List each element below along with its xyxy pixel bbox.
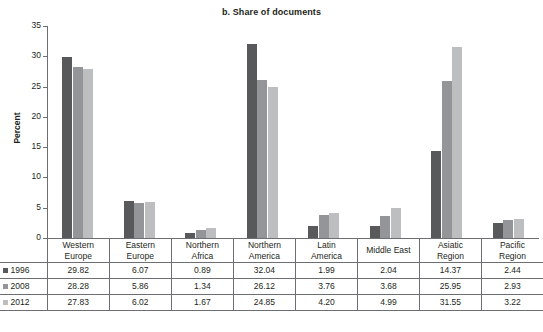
y-tick-label: 15 bbox=[32, 141, 41, 151]
table-value-cell: 14.37 bbox=[419, 263, 481, 279]
bar bbox=[124, 201, 134, 238]
y-tick-label: 30 bbox=[32, 50, 41, 60]
legend-label: 2008 bbox=[11, 281, 30, 291]
table-value-cell: 4.99 bbox=[358, 295, 420, 311]
category-label-line: Western bbox=[48, 240, 109, 251]
bar-group bbox=[232, 26, 294, 238]
legend-swatch bbox=[3, 284, 8, 289]
bar-group bbox=[47, 26, 109, 238]
category-label-line: Europe bbox=[110, 251, 171, 262]
table-value-cell: 24.85 bbox=[233, 295, 295, 311]
bar-group bbox=[293, 26, 355, 238]
bar bbox=[83, 69, 93, 238]
legend-label: 1996 bbox=[11, 265, 30, 275]
table-row: 200828.285.861.3426.123.763.6825.952.93 bbox=[0, 279, 543, 295]
bar bbox=[196, 230, 206, 238]
category-label-line: America bbox=[296, 251, 357, 262]
bar bbox=[329, 213, 339, 238]
table-value-cell: 6.02 bbox=[109, 295, 171, 311]
table-value-cell: 25.95 bbox=[419, 279, 481, 295]
y-tick-label: 25 bbox=[32, 81, 41, 91]
bar bbox=[503, 220, 513, 238]
category-label-line: Northern bbox=[172, 240, 233, 251]
bar-group bbox=[109, 26, 171, 238]
plot-area: 05101520253035 bbox=[47, 26, 539, 239]
bar bbox=[380, 216, 390, 238]
table-value-cell: 32.04 bbox=[233, 263, 295, 279]
table-value-cell: 26.12 bbox=[233, 279, 295, 295]
bar bbox=[319, 215, 329, 238]
bar bbox=[268, 87, 278, 238]
legend-entry: 2008 bbox=[0, 279, 47, 295]
table-category-header: PacificRegion bbox=[481, 239, 543, 263]
table-value-cell: 3.68 bbox=[358, 279, 420, 295]
table-category-header: LatinAmerica bbox=[295, 239, 357, 263]
bar bbox=[308, 226, 318, 238]
table-value-cell: 5.86 bbox=[109, 279, 171, 295]
bar bbox=[247, 44, 257, 238]
category-label-line: Latin bbox=[296, 240, 357, 251]
legend-entry: 1996 bbox=[0, 263, 47, 279]
table-corner-cell bbox=[0, 239, 47, 263]
bar-group bbox=[170, 26, 232, 238]
legend-swatch bbox=[3, 268, 8, 273]
category-label-line: Europe bbox=[48, 251, 109, 262]
category-label-line: Region bbox=[482, 251, 543, 262]
table-value-cell: 2.04 bbox=[358, 263, 420, 279]
bar bbox=[134, 203, 144, 238]
table-value-cell: 29.82 bbox=[47, 263, 109, 279]
bar bbox=[73, 67, 83, 238]
category-label-line: Region bbox=[420, 251, 481, 262]
table-category-header: EasternEurope bbox=[109, 239, 171, 263]
bar bbox=[62, 57, 72, 238]
bar bbox=[514, 219, 524, 239]
table-value-cell: 1.34 bbox=[171, 279, 233, 295]
table-value-cell: 31.55 bbox=[419, 295, 481, 311]
legend-entry: 2012 bbox=[0, 295, 47, 311]
table-row: 199629.826.070.8932.041.992.0414.372.44 bbox=[0, 263, 543, 279]
chart-title: b. Share of documents bbox=[0, 7, 543, 17]
table-value-cell: 1.67 bbox=[171, 295, 233, 311]
legend-swatch bbox=[3, 300, 8, 305]
bar bbox=[431, 151, 441, 238]
table-category-header: Middle East bbox=[358, 239, 420, 263]
table-value-cell: 28.28 bbox=[47, 279, 109, 295]
bar-group bbox=[355, 26, 417, 238]
table-value-cell: 6.07 bbox=[109, 263, 171, 279]
table-value-cell: 3.22 bbox=[481, 295, 543, 311]
bar bbox=[370, 226, 380, 238]
bar bbox=[391, 208, 401, 238]
table-row: 201227.836.021.6724.854.204.9931.553.22 bbox=[0, 295, 543, 311]
category-label-line: Middle East bbox=[358, 245, 419, 256]
bar-group bbox=[416, 26, 478, 238]
table-category-header: AsiaticRegion bbox=[419, 239, 481, 263]
y-tick-label: 5 bbox=[36, 202, 41, 212]
y-tick-label: 10 bbox=[32, 171, 41, 181]
table-category-header: NorthernAmerica bbox=[233, 239, 295, 263]
category-label-line: Northern bbox=[234, 240, 295, 251]
bar bbox=[206, 228, 216, 238]
bar bbox=[145, 202, 155, 238]
category-label-line: Africa bbox=[172, 251, 233, 262]
category-label-line: Asiatic bbox=[420, 240, 481, 251]
bar bbox=[442, 81, 452, 238]
category-label-line: America bbox=[234, 251, 295, 262]
table-value-cell: 4.20 bbox=[295, 295, 357, 311]
table-value-cell: 3.76 bbox=[295, 279, 357, 295]
y-tick-label: 20 bbox=[32, 111, 41, 121]
bar bbox=[185, 233, 195, 238]
chart-figure: b. Share of documents Percent 0510152025… bbox=[0, 0, 543, 332]
y-tick-label: 35 bbox=[32, 20, 41, 30]
table-category-header: WesternEurope bbox=[47, 239, 109, 263]
category-label-line: Pacific bbox=[482, 240, 543, 251]
table-value-cell: 2.44 bbox=[481, 263, 543, 279]
bar bbox=[493, 223, 503, 238]
table-value-cell: 1.99 bbox=[295, 263, 357, 279]
bar-group bbox=[478, 26, 540, 238]
table-value-cell: 27.83 bbox=[47, 295, 109, 311]
legend-label: 2012 bbox=[11, 297, 30, 307]
category-label-line: Eastern bbox=[110, 240, 171, 251]
data-table: WesternEuropeEasternEuropeNorthernAfrica… bbox=[0, 239, 543, 311]
table-value-cell: 0.89 bbox=[171, 263, 233, 279]
bar bbox=[257, 80, 267, 238]
